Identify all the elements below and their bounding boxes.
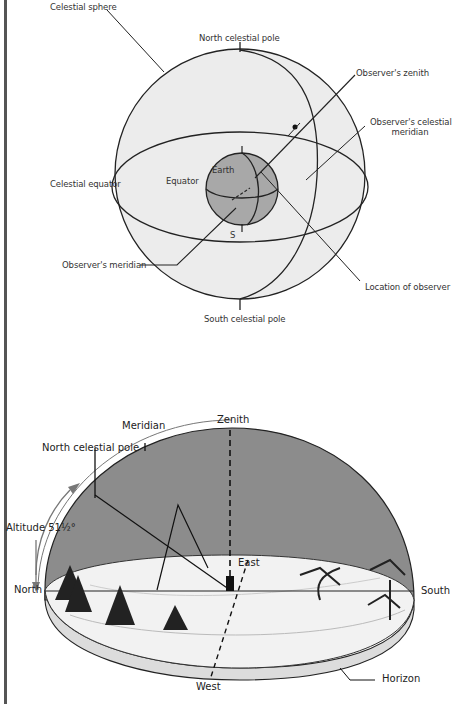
altitude-label: Altitude 51½° [6,522,76,533]
meridian-label: Meridian [122,420,165,431]
north-celestial-pole-label-bottom: North celestial pole [42,442,139,453]
observer-figure [226,576,234,591]
west-label: West [196,681,221,692]
north-label: North [14,584,42,595]
horizon-dome-diagram [0,0,454,704]
zenith-label: Zenith [217,414,249,425]
south-label: South [421,585,450,596]
east-label: East [238,557,260,568]
horizon-label: Horizon [382,673,420,684]
